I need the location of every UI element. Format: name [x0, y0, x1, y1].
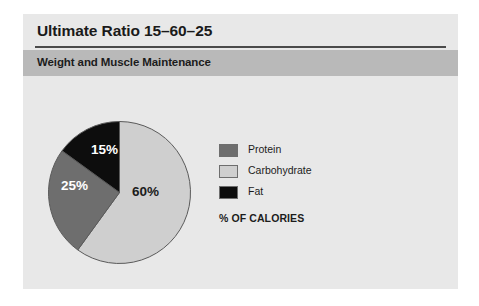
pie-label-fat: 15%	[91, 142, 118, 157]
legend: Protein Carbohydrate Fat % OF CALORIES	[219, 142, 359, 205]
legend-label-protein: Protein	[248, 143, 281, 155]
figure-root: Ultimate Ratio 15–60–25 Weight and Muscl…	[0, 0, 479, 306]
chart-panel: Ultimate Ratio 15–60–25 Weight and Muscl…	[23, 14, 458, 289]
pie-label-carbohydrate: 60%	[132, 184, 159, 199]
title-divider	[35, 46, 446, 48]
subtitle-band: Weight and Muscle Maintenance	[23, 50, 458, 76]
legend-caption: % OF CALORIES	[219, 212, 304, 224]
legend-label-carbohydrate: Carbohydrate	[248, 164, 312, 176]
pie-chart: 60% 25% 15%	[47, 120, 192, 265]
legend-swatch-fat	[219, 186, 238, 199]
plot-area: 60% 25% 15% Protein Carbohydrate Fat % O	[23, 76, 458, 289]
legend-item-fat: Fat	[219, 184, 359, 205]
legend-item-carbohydrate: Carbohydrate	[219, 163, 359, 184]
title-block: Ultimate Ratio 15–60–25	[23, 14, 458, 50]
pie-label-protein: 25%	[61, 178, 88, 193]
legend-swatch-protein	[219, 144, 238, 157]
subtitle-text: Weight and Muscle Maintenance	[37, 56, 211, 68]
legend-swatch-carbohydrate	[219, 165, 238, 178]
page-title: Ultimate Ratio 15–60–25	[37, 22, 212, 40]
legend-item-protein: Protein	[219, 142, 359, 163]
legend-label-fat: Fat	[248, 185, 263, 197]
